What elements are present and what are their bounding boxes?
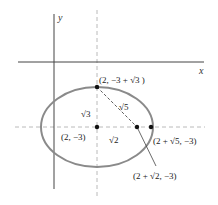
ellipse-diagram: y x (2, −3 + √3 ) (2, −3) (2 + √2, −3) (…: [0, 0, 218, 205]
sqrt3-label: √3: [81, 109, 91, 119]
center-label: (2, −3): [61, 132, 86, 142]
center-point: [95, 125, 99, 129]
focus-point: [135, 125, 139, 129]
top-vertex-point: [95, 85, 99, 89]
hypotenuse-dashed-line: [97, 87, 137, 127]
focus-label: (2 + √2, −3): [133, 171, 177, 181]
sqrt5-label: √5: [119, 102, 129, 112]
right-vertex-label: (2 + √5, −3): [153, 136, 197, 146]
x-axis-label: x: [198, 65, 204, 76]
right-vertex-point: [149, 125, 153, 129]
y-axis-label: y: [57, 12, 63, 23]
top-vertex-label: (2, −3 + √3 ): [99, 75, 145, 85]
sqrt2-label: √2: [109, 135, 118, 145]
